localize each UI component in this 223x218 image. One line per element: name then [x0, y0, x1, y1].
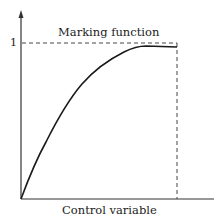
y-tick-one: 1 — [10, 36, 17, 49]
y-axis-arrow-icon — [19, 10, 24, 18]
x-axis-label: Control variable — [62, 203, 157, 217]
marking-function-chart: Marking function 1 Control variable — [0, 0, 223, 218]
marking-function-curve — [21, 46, 177, 199]
chart-title: Marking function — [58, 25, 159, 39]
